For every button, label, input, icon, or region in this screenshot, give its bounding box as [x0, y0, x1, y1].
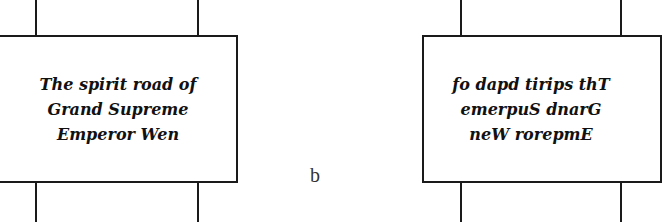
right-sign-line-1: fo dapd tirips thT — [452, 72, 609, 97]
right-post-top-right — [620, 0, 622, 36]
right-post-bottom-right — [620, 182, 622, 222]
right-sign-panel: fo dapd tirips thT emerpuS dnarG neW ror… — [422, 35, 662, 183]
left-sign-line-2: Grand Supreme — [48, 97, 189, 122]
left-sign-line-1: The spirit road of — [40, 72, 197, 97]
left-sign-line-3: Emperor Wen — [57, 122, 179, 147]
left-post-top-left — [35, 0, 37, 36]
right-sign-line-2: emerpuS dnarG — [461, 97, 602, 122]
right-post-top-left — [460, 0, 462, 36]
left-post-bottom-left — [35, 182, 37, 222]
right-post-bottom-left — [460, 182, 462, 222]
left-post-bottom-right — [197, 182, 199, 222]
figure-label: b — [310, 164, 320, 187]
right-sign-line-3: neW rorepmE — [469, 122, 592, 147]
left-sign-panel: The spirit road of Grand Supreme Emperor… — [0, 35, 238, 183]
left-post-top-right — [197, 0, 199, 36]
